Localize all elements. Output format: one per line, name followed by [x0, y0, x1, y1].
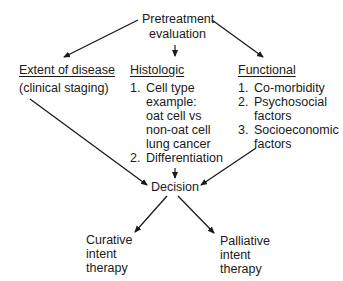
histologic-list: 1. Cell type example: oat cell vs non-oa… [130, 81, 223, 165]
palliative-line3: therapy [220, 262, 262, 276]
functional-item-2: 2. Psychosocial factors [238, 95, 339, 123]
histologic-title: Histologic [130, 63, 184, 77]
curative-line2: intent [86, 247, 117, 261]
extent-subtitle: (clinical staging) [19, 81, 109, 95]
arrow-decision-to-palliative [178, 196, 214, 233]
curative-line1: Curative [86, 233, 133, 247]
root-node-line2: evaluation [149, 27, 206, 41]
curative-line3: therapy [86, 261, 128, 275]
arrow-decision-to-curative [135, 196, 167, 232]
arrow-root-to-functional [212, 20, 263, 57]
palliative-line1: Palliative [220, 234, 270, 248]
decision-node: Decision [151, 180, 199, 194]
root-node-line1: Pretreatment [142, 12, 214, 26]
extent-title: Extent of disease [19, 63, 115, 77]
functional-title: Functional [238, 63, 296, 77]
pretreatment-evaluation-diagram: Pretreatment evaluation Extent of diseas… [0, 0, 343, 281]
arrow-root-to-extent [64, 20, 138, 57]
histologic-item-1: 1. Cell type example: oat cell vs non-oa… [130, 81, 223, 151]
functional-item-1: 1. Co-morbidity [238, 81, 339, 95]
functional-item-3: 3. Socioeconomic factors [238, 123, 339, 151]
palliative-line2: intent [220, 248, 251, 262]
functional-list: 1. Co-morbidity 2. Psychosocial factors … [238, 81, 339, 151]
histologic-item-2: 2. Differentiation [130, 151, 223, 165]
